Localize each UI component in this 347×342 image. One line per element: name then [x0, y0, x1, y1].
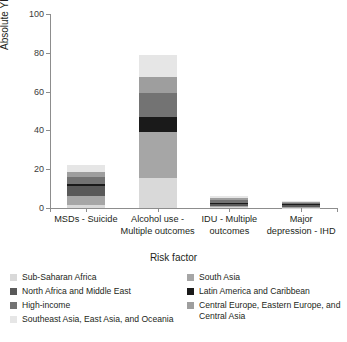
legend-label: Latin America and Caribbean — [199, 286, 310, 297]
x-axis-label-line: Major — [253, 214, 347, 226]
bar-stack[interactable] — [210, 196, 248, 208]
x-tick-mark — [86, 208, 87, 212]
bar-segment[interactable] — [67, 196, 105, 205]
legend-label: North Africa and Middle East — [22, 286, 131, 297]
x-axis-label: Majordepression - IHD — [253, 214, 347, 237]
bar-segment[interactable] — [67, 177, 105, 185]
legend-item[interactable]: Latin America and Caribbean — [187, 286, 347, 297]
plot-area: 020406080100 — [50, 14, 337, 208]
y-tick-mark — [46, 169, 50, 170]
x-axis-label-line: depression - IHD — [253, 226, 347, 238]
y-tick-mark — [46, 130, 50, 131]
legend-label: High-income — [22, 300, 70, 311]
legend-item[interactable]: Sub-Saharan Africa — [10, 272, 188, 283]
x-tick-mark-edge — [50, 208, 51, 212]
x-tick-mark — [158, 208, 159, 212]
legend-swatch-icon — [10, 288, 17, 295]
bar-segment[interactable] — [139, 132, 177, 178]
x-axis-line — [50, 208, 337, 209]
bar-segment[interactable] — [139, 117, 177, 132]
y-tick-label: 100 — [0, 9, 50, 19]
bar-segment[interactable] — [67, 186, 105, 196]
legend-item[interactable]: North Africa and Middle East — [10, 286, 188, 297]
legend-column-left: Sub-Saharan AfricaNorth Africa and Middl… — [10, 272, 188, 328]
bar-segment[interactable] — [139, 178, 177, 208]
bar-stack[interactable] — [139, 55, 177, 208]
x-tick-mark-edge — [337, 208, 338, 212]
legend-swatch-icon — [10, 302, 17, 309]
legend-item[interactable]: South Asia — [187, 272, 347, 283]
legend-column-right: South AsiaLatin America and CaribbeanCen… — [187, 272, 347, 325]
y-tick-label: 20 — [0, 164, 50, 174]
legend-label: Central Europe, Eastern Europe, and Cent… — [199, 300, 347, 321]
legend-item[interactable]: Central Europe, Eastern Europe, and Cent… — [187, 300, 347, 321]
bar-stack[interactable] — [282, 201, 320, 208]
legend-swatch-icon — [187, 274, 194, 281]
legend-item[interactable]: Southeast Asia, East Asia, and Oceania — [10, 314, 188, 325]
y-axis-title: Absolute YLLs (millions) — [0, 0, 10, 50]
x-tick-mark — [229, 208, 230, 212]
bar-segment[interactable] — [139, 55, 177, 77]
y-tick-label: 60 — [0, 87, 50, 97]
legend-swatch-icon — [10, 274, 17, 281]
legend-label: Sub-Saharan Africa — [22, 272, 97, 283]
y-tick-label: 0 — [0, 203, 50, 213]
bar-segment[interactable] — [139, 77, 177, 93]
legend-swatch-icon — [187, 302, 194, 309]
legend-swatch-icon — [187, 288, 194, 295]
bar-stack[interactable] — [67, 165, 105, 208]
x-axis-title: Risk factor — [0, 252, 347, 263]
legend-item[interactable]: High-income — [10, 300, 188, 311]
legend-label: Southeast Asia, East Asia, and Oceania — [22, 314, 173, 325]
bar-segment[interactable] — [139, 93, 177, 117]
y-tick-label: 40 — [0, 125, 50, 135]
y-tick-label: 80 — [0, 48, 50, 58]
y-tick-mark — [46, 53, 50, 54]
y-tick-mark — [46, 92, 50, 93]
legend-swatch-icon — [10, 316, 17, 323]
stacked-bar-chart: Absolute YLLs (millions) 020406080100 MS… — [0, 0, 347, 342]
legend-label: South Asia — [199, 272, 240, 283]
y-tick-mark — [46, 14, 50, 15]
x-tick-mark — [301, 208, 302, 212]
